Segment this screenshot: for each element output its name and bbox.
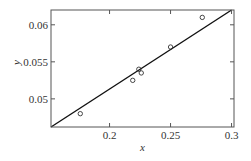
y-axis-label: y xyxy=(10,60,22,66)
y-tick-label: 0.055 xyxy=(23,56,48,68)
x-axis-label: x xyxy=(139,141,145,153)
data-points xyxy=(78,15,204,116)
data-point xyxy=(168,45,172,49)
x-axis-ticks: 0.20.250.3 xyxy=(103,10,239,141)
data-point xyxy=(200,15,204,19)
y-axis-ticks: 0.050.0550.06 xyxy=(23,19,234,105)
y-tick-label: 0.05 xyxy=(29,93,49,105)
data-point xyxy=(131,78,135,82)
scatter-plot: 0.20.250.3 0.050.0550.06 x y xyxy=(0,0,251,161)
x-tick-label: 0.2 xyxy=(103,129,117,141)
y-tick-label: 0.06 xyxy=(29,19,49,31)
x-tick-label: 0.25 xyxy=(161,129,181,141)
data-point xyxy=(78,111,82,115)
data-point xyxy=(139,71,143,75)
x-tick-label: 0.3 xyxy=(225,129,239,141)
